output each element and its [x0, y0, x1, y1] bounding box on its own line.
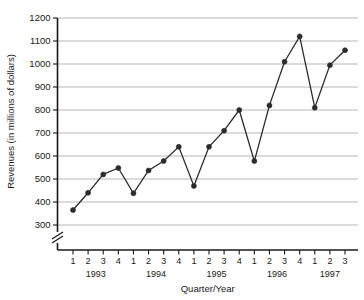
data-point-16 — [312, 105, 317, 110]
data-point-8 — [191, 183, 196, 188]
data-point-13 — [267, 103, 272, 108]
x-tick-label-7: 4 — [176, 256, 181, 266]
y-tick-label-1200: 1200 — [29, 12, 50, 23]
y-axis-title: Revenues (in millions of dollars) — [5, 54, 16, 189]
data-series-line — [73, 36, 345, 210]
revenue-line-chart: 3004005006007008009001000110012001234123… — [0, 0, 364, 300]
y-tick-label-400: 400 — [35, 196, 51, 207]
x-tick-label-6: 3 — [161, 256, 166, 266]
x-tick-label-1: 2 — [86, 256, 91, 266]
data-point-4 — [131, 191, 136, 196]
data-point-6 — [161, 159, 166, 164]
y-tick-label-600: 600 — [35, 150, 51, 161]
y-tick-label-1100: 1100 — [30, 35, 50, 46]
y-tick-label-700: 700 — [35, 127, 51, 138]
x-tick-label-0: 1 — [70, 256, 75, 266]
data-point-2 — [101, 172, 106, 177]
data-point-17 — [327, 63, 332, 68]
x-tick-label-13: 2 — [267, 256, 272, 266]
data-point-18 — [343, 48, 348, 53]
axis-break-icon — [52, 232, 63, 239]
data-point-15 — [297, 34, 302, 39]
x-tick-label-2: 3 — [101, 256, 106, 266]
x-tick-label-16: 1 — [312, 256, 317, 266]
year-label-1997: 1997 — [320, 269, 340, 279]
x-tick-label-11: 4 — [237, 256, 242, 266]
year-label-1994: 1994 — [146, 269, 166, 279]
x-tick-label-12: 1 — [252, 256, 257, 266]
x-tick-label-17: 2 — [327, 256, 332, 266]
x-tick-label-18: 3 — [342, 256, 347, 266]
year-label-1995: 1995 — [207, 269, 227, 279]
y-tick-label-900: 900 — [35, 81, 51, 92]
data-point-14 — [282, 59, 287, 64]
data-point-5 — [146, 168, 151, 173]
y-tick-label-300: 300 — [35, 219, 51, 230]
x-tick-label-5: 2 — [146, 256, 151, 266]
data-point-0 — [71, 208, 76, 213]
data-point-3 — [116, 165, 121, 170]
x-tick-label-14: 3 — [282, 256, 287, 266]
year-label-1993: 1993 — [86, 269, 106, 279]
x-axis-title: Quarter/Year — [181, 283, 235, 294]
data-point-11 — [237, 108, 242, 113]
data-point-1 — [86, 190, 91, 195]
x-tick-label-3: 4 — [116, 256, 121, 266]
y-tick-label-800: 800 — [35, 104, 51, 115]
data-point-7 — [176, 144, 181, 149]
axis-break-icon-2 — [52, 236, 63, 243]
x-tick-label-8: 1 — [191, 256, 196, 266]
data-point-9 — [207, 144, 212, 149]
x-tick-label-4: 1 — [131, 256, 136, 266]
x-tick-label-9: 2 — [206, 256, 211, 266]
chart-plot-area: 3004005006007008009001000110012001234123… — [0, 0, 364, 300]
data-point-12 — [252, 159, 257, 164]
x-tick-label-10: 3 — [222, 256, 227, 266]
y-tick-label-1000: 1000 — [29, 58, 50, 69]
y-tick-label-500: 500 — [35, 173, 51, 184]
data-point-10 — [222, 128, 227, 133]
x-tick-label-15: 4 — [297, 256, 302, 266]
year-label-1996: 1996 — [267, 269, 287, 279]
